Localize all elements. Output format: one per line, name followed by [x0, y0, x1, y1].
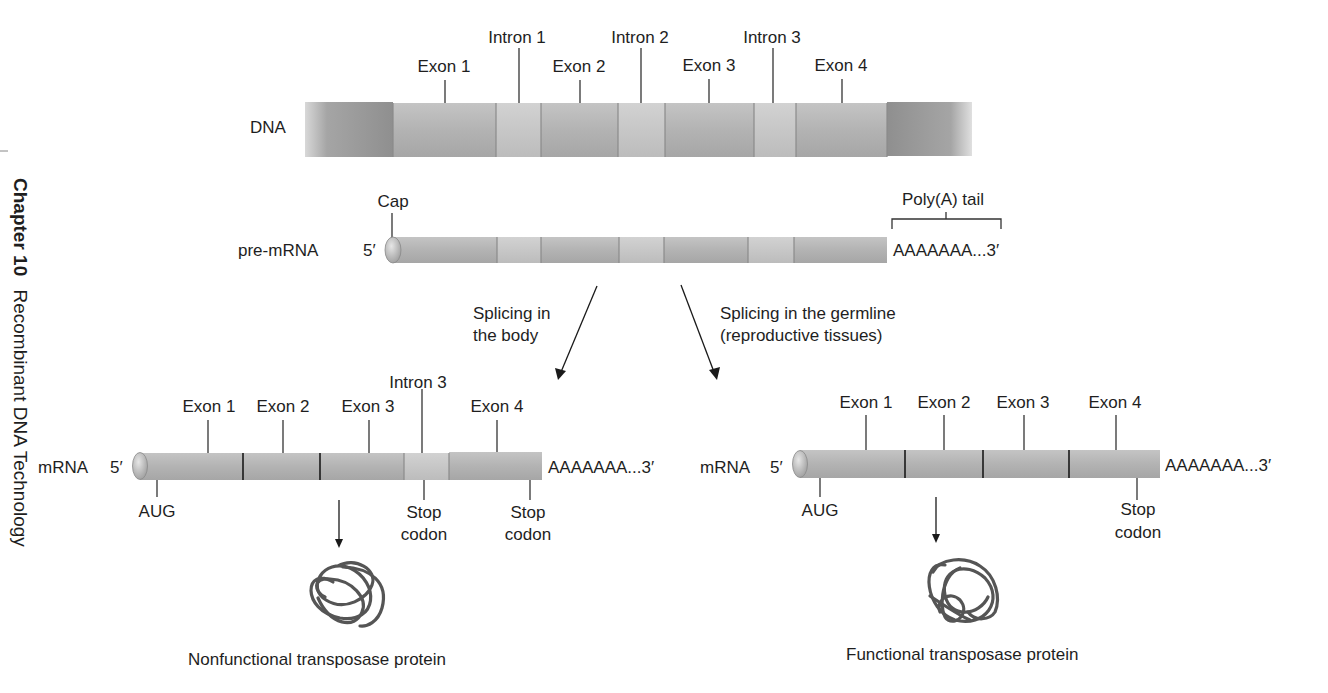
pre-mrna-intron-3	[748, 237, 794, 263]
mrna-body-exon-3	[320, 453, 404, 480]
pre-mrna-exon-3	[664, 237, 748, 263]
germline-arrow-shaft	[681, 285, 714, 372]
mrna-germline-exon-3	[983, 450, 1069, 478]
chapter-number: Chapter 10	[10, 178, 31, 276]
chapter-title: Recombinant DNA Technology	[10, 289, 31, 547]
side-chapter-header: Chapter 10 Recombinant DNA Technology	[10, 178, 31, 547]
mrna-body-exon-1	[140, 453, 244, 480]
dna-intron-3	[754, 103, 796, 157]
poly-a-label: Poly(A) tail	[902, 190, 984, 209]
dna-exon-1	[393, 103, 496, 157]
body-splicing-line2: the body	[473, 326, 539, 345]
mrna-body-exon-3-label: Exon 3	[342, 397, 395, 416]
mrna-body-exon-2-label: Exon 2	[257, 397, 310, 416]
mrna-body-stop1-line1: Stop	[407, 503, 442, 522]
down-arrow-icon	[932, 534, 940, 543]
mrna-germline-five-prime: 5′	[770, 458, 783, 477]
mrna-germline-stop-line1: Stop	[1121, 500, 1156, 519]
pre-mrna-exon-2	[541, 237, 619, 263]
pre-mrna-label: pre-mRNA	[238, 241, 319, 260]
nonfunctional-protein-label: Nonfunctional transposase protein	[188, 650, 446, 669]
dna-strand: DNA Exon 1 Intron 1 Exon 2 I	[250, 28, 972, 157]
germline-arrow-head-icon	[709, 367, 720, 380]
mrna-germline-exon-1-label: Exon 1	[840, 393, 893, 412]
mrna-body-stop1-line2: codon	[401, 525, 447, 544]
dna-exon-4-label: Exon 4	[815, 56, 868, 75]
poly-a-bracket	[892, 212, 1001, 229]
pre-mrna-intron-2	[619, 237, 664, 263]
mrna-body-exon-4-label: Exon 4	[471, 397, 524, 416]
transposase-splicing-diagram: Chapter 10 Recombinant DNA Technology DN…	[0, 0, 1328, 693]
pre-mrna-exon-1	[393, 237, 497, 263]
dna-intron-1-label: Intron 1	[488, 28, 546, 47]
dna-intron-2-label: Intron 2	[611, 28, 669, 47]
down-arrow-icon	[335, 539, 343, 548]
mrna-body-label: mRNA	[38, 458, 89, 477]
mrna-germline-aug-label: AUG	[802, 501, 839, 520]
dna-exon-1-label: Exon 1	[418, 57, 471, 76]
mrna-body-exon-1-label: Exon 1	[183, 397, 236, 416]
mrna-germline-label: mRNA	[700, 458, 751, 477]
mrna-body-exon-4	[449, 452, 542, 480]
pre-mrna-exon-4	[794, 237, 887, 263]
mrna-germline-tail: AAAAAAA...3′	[1165, 456, 1271, 475]
body-splicing-line1: Splicing in	[473, 304, 551, 323]
mrna-body-five-prime: 5′	[110, 458, 123, 477]
mrna-body-stop2-line2: codon	[505, 525, 551, 544]
mrna-germline-exon-2	[905, 450, 983, 478]
pre-mrna-tail: AAAAAAA...3′	[893, 241, 999, 260]
germline-splicing-pathway: Splicing in the germline (reproductive t…	[681, 285, 896, 380]
dna-exon-4	[796, 103, 887, 157]
germline-splicing-line1: Splicing in the germline	[720, 304, 896, 323]
mrna-body-cap-icon	[133, 453, 148, 480]
mrna-body-tail: AAAAAAA...3′	[548, 458, 654, 477]
dna-exon-2-label: Exon 2	[553, 57, 606, 76]
cap-icon	[385, 237, 401, 263]
dna-intron-2	[618, 103, 665, 157]
dna-intron-3-label: Intron 3	[743, 28, 801, 47]
body-splicing-pathway: Splicing in the body	[473, 286, 597, 380]
dna-exon-3	[665, 103, 754, 157]
pre-mrna-five-prime: 5′	[363, 241, 376, 260]
mrna-germline-exon-1	[800, 450, 905, 478]
mrna-germline-stop-line2: codon	[1115, 523, 1161, 542]
mrna-body-stop2-line1: Stop	[511, 503, 546, 522]
pre-mrna-intron-1	[497, 237, 541, 263]
dna-flank-right	[887, 102, 972, 156]
nonfunctional-protein-icon	[311, 563, 383, 626]
mrna-body-exon-2	[244, 453, 320, 480]
mrna-germline-exon-2-label: Exon 2	[918, 393, 971, 412]
dna-label: DNA	[250, 118, 287, 137]
pre-mrna-strand: pre-mRNA 5′ Cap Poly(A) tail AAAAAAA...3…	[238, 190, 1001, 263]
mrna-body-intron-3	[404, 453, 449, 480]
dna-intron-1	[496, 103, 541, 157]
mrna-germline-exon-4	[1069, 450, 1160, 478]
cap-label: Cap	[377, 192, 408, 211]
dna-exon-2	[541, 103, 618, 157]
mrna-germline: mRNA 5′ Exon 1 Exon 2 Exon 3 Exon 4 AAAA…	[700, 393, 1271, 543]
mrna-germline-exon-3-label: Exon 3	[997, 393, 1050, 412]
body-arrow-head-icon	[555, 368, 566, 380]
dna-flank-left	[305, 102, 393, 157]
body-arrow-shaft	[561, 286, 597, 372]
mrna-body-aug-label: AUG	[139, 502, 176, 521]
dna-exon-3-label: Exon 3	[683, 56, 736, 75]
functional-protein-label: Functional transposase protein	[846, 645, 1078, 664]
mrna-germline-cap-icon	[793, 451, 808, 478]
functional-protein-icon	[929, 560, 997, 622]
mrna-germline-exon-4-label: Exon 4	[1089, 393, 1142, 412]
mrna-body: mRNA 5′ Exon 1 Exon 2 Exon 3 Intron 3 Ex…	[38, 373, 654, 548]
mrna-body-intron-3-label: Intron 3	[389, 373, 447, 392]
germline-splicing-line2: (reproductive tissues)	[720, 326, 883, 345]
